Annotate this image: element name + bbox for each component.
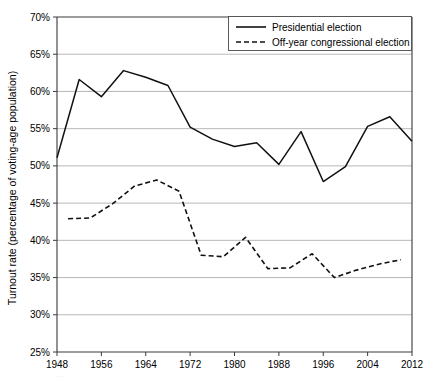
x-tick-label-2012: 2012	[401, 359, 424, 370]
legend: Presidential election Off-year congressi…	[229, 17, 412, 51]
data-series-layer	[57, 71, 412, 278]
series-line-off-year-congressional-election	[68, 180, 401, 278]
x-tick-label-1964: 1964	[135, 359, 158, 370]
y-tick-label-70: 70%	[30, 12, 50, 23]
y-tick-label-25: 25%	[30, 347, 50, 358]
scan-artifact-text: ....	[56, 371, 64, 378]
gridlines	[57, 54, 412, 315]
x-axis-ticks: 194819561964197219801988199620042012	[46, 352, 424, 370]
y-tick-label-55: 55%	[30, 123, 50, 134]
x-tick-label-1956: 1956	[90, 359, 113, 370]
legend-label-presidential: Presidential election	[272, 22, 362, 33]
series-line-presidential-election	[57, 71, 412, 182]
y-axis-title: Turnout rate (percentage of voting-age p…	[6, 71, 18, 305]
x-tick-label-1972: 1972	[179, 359, 202, 370]
y-tick-label-35: 35%	[30, 272, 50, 283]
x-tick-label-1996: 1996	[312, 359, 335, 370]
turnout-rate-line-chart: Turnout rate (percentage of voting-age p…	[0, 0, 431, 383]
legend-label-off-year: Off-year congressional election	[272, 37, 410, 48]
y-tick-label-60: 60%	[30, 86, 50, 97]
chart-canvas: Turnout rate (percentage of voting-age p…	[0, 0, 431, 383]
x-tick-label-1988: 1988	[268, 359, 291, 370]
x-tick-label-1948: 1948	[46, 359, 69, 370]
x-tick-label-2004: 2004	[357, 359, 380, 370]
y-axis-title-group: Turnout rate (percentage of voting-age p…	[6, 71, 18, 305]
y-tick-label-45: 45%	[30, 198, 50, 209]
scan-artifact: ....	[56, 371, 64, 378]
y-tick-label-50: 50%	[30, 160, 50, 171]
y-tick-label-40: 40%	[30, 235, 50, 246]
x-tick-label-1980: 1980	[223, 359, 246, 370]
y-axis-ticks: 70%65%60%55%50%45%40%35%30%25%	[30, 12, 57, 358]
y-tick-label-30: 30%	[30, 309, 50, 320]
y-tick-label-65: 65%	[30, 49, 50, 60]
